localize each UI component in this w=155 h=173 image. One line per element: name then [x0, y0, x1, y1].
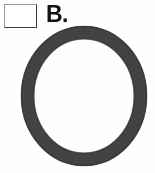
figure-panel: B.: [0, 0, 155, 173]
ring-texture: [18, 23, 150, 169]
circle-outline-figure: [18, 23, 150, 169]
circle-outline-svg: [18, 23, 150, 169]
